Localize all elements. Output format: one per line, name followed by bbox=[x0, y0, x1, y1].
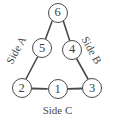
magic-triangle-figure: 6 5 4 2 1 3 Side A Side B Side C bbox=[0, 0, 115, 125]
edge-5-2 bbox=[26, 57, 38, 79]
node-5-label: 5 bbox=[39, 41, 45, 54]
node-5: 5 bbox=[32, 38, 52, 58]
node-2-label: 2 bbox=[18, 81, 24, 94]
node-6-label: 6 bbox=[54, 6, 60, 19]
node-1-label: 1 bbox=[54, 82, 60, 95]
side-c-label: Side C bbox=[0, 104, 115, 116]
edge-4-3 bbox=[77, 59, 89, 80]
node-4-label: 4 bbox=[69, 43, 75, 56]
node-1: 1 bbox=[48, 79, 68, 99]
node-4: 4 bbox=[62, 40, 82, 60]
node-6: 6 bbox=[48, 3, 68, 23]
edge-6-4 bbox=[64, 22, 70, 41]
node-2: 2 bbox=[12, 78, 32, 98]
node-3: 3 bbox=[82, 78, 102, 98]
node-3-label: 3 bbox=[89, 81, 95, 94]
edge-6-5 bbox=[46, 22, 53, 40]
